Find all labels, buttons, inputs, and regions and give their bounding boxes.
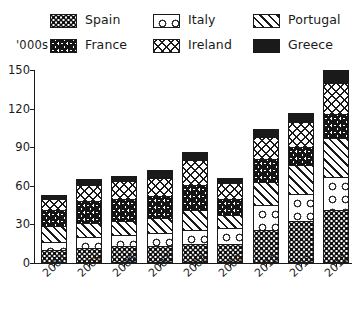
bar-segment-italy-2011[interactable]: [288, 194, 314, 221]
legend-item-greece: Greece: [253, 39, 356, 53]
bar-segment-italy-2009[interactable]: [217, 228, 243, 243]
bar-segment-ireland-2010[interactable]: [253, 137, 279, 159]
legend-item-ireland: Ireland: [153, 39, 253, 53]
legend-label-portugal: Portugal: [288, 14, 341, 27]
bar-segment-greece-2010[interactable]: [253, 129, 279, 137]
bar-segment-portugal-2004[interactable]: [41, 226, 67, 243]
bar-segment-greece-2012[interactable]: [323, 70, 349, 83]
y-tick-label: 0: [4, 256, 30, 270]
bar-2007[interactable]: [147, 170, 173, 263]
bar-2011[interactable]: [288, 113, 314, 263]
legend-label-ireland: Ireland: [188, 39, 232, 52]
bar-segment-greece-2007[interactable]: [147, 170, 173, 178]
bar-segment-portugal-2008[interactable]: [182, 210, 208, 229]
bar-2006[interactable]: [111, 176, 137, 263]
legend-swatch-greece: [253, 39, 280, 53]
bar-segment-ireland-2005[interactable]: [76, 185, 102, 202]
bar-segment-italy-2007[interactable]: [147, 233, 173, 246]
bar-segment-italy-2008[interactable]: [182, 230, 208, 244]
legend-swatch-italy: [153, 14, 180, 28]
bar-2010[interactable]: [253, 129, 279, 263]
stacked-bars-group: [36, 70, 354, 263]
bar-segment-italy-2005[interactable]: [76, 237, 102, 247]
bar-segment-portugal-2007[interactable]: [147, 218, 173, 233]
bar-segment-portugal-2011[interactable]: [288, 165, 314, 193]
bar-segment-france-2011[interactable]: [288, 147, 314, 165]
bar-segment-greece-2008[interactable]: [182, 152, 208, 160]
chart-plot-area: '000s 0306090120150 20042005200620072008…: [0, 60, 359, 312]
bar-segment-france-2004[interactable]: [41, 210, 67, 225]
bar-segment-ireland-2012[interactable]: [323, 83, 349, 114]
bar-2008[interactable]: [182, 152, 208, 263]
legend-label-france: France: [85, 39, 127, 52]
bar-segment-ireland-2007[interactable]: [147, 178, 173, 196]
legend-label-greece: Greece: [288, 39, 333, 52]
chart-legend: Spain Italy Portugal France Ireland Gree…: [50, 8, 356, 58]
legend-item-france: France: [50, 39, 153, 53]
legend-item-portugal: Portugal: [253, 14, 356, 28]
legend-row: France Ireland Greece: [50, 33, 356, 58]
y-tick-label: 60: [4, 179, 30, 193]
bar-segment-portugal-2010[interactable]: [253, 182, 279, 205]
legend-label-spain: Spain: [85, 14, 120, 27]
bar-segment-italy-2004[interactable]: [41, 242, 67, 250]
bar-2012[interactable]: [323, 70, 349, 263]
bar-segment-portugal-2006[interactable]: [111, 221, 137, 235]
y-tick-label: 150: [4, 63, 30, 77]
bar-segment-ireland-2009[interactable]: [217, 183, 243, 198]
bar-segment-portugal-2005[interactable]: [76, 223, 102, 237]
legend-swatch-portugal: [253, 14, 280, 28]
y-tick-label: 90: [4, 140, 30, 154]
bar-segment-france-2006[interactable]: [111, 199, 137, 221]
bar-segment-portugal-2012[interactable]: [323, 138, 349, 177]
bar-segment-france-2012[interactable]: [323, 114, 349, 138]
bar-segment-ireland-2004[interactable]: [41, 199, 67, 211]
legend-swatch-france: [50, 39, 77, 53]
bar-2009[interactable]: [217, 178, 243, 263]
bar-segment-ireland-2011[interactable]: [288, 122, 314, 148]
bar-segment-france-2010[interactable]: [253, 159, 279, 182]
legend-item-italy: Italy: [153, 14, 253, 28]
bar-segment-france-2009[interactable]: [217, 199, 243, 216]
bar-segment-france-2007[interactable]: [147, 196, 173, 218]
bar-segment-greece-2011[interactable]: [288, 113, 314, 122]
bar-segment-france-2008[interactable]: [182, 185, 208, 211]
y-axis-ticks: 0306090120150: [0, 60, 30, 312]
bar-segment-ireland-2008[interactable]: [182, 160, 208, 184]
bar-segment-italy-2006[interactable]: [111, 235, 137, 247]
y-tick-label: 30: [4, 217, 30, 231]
bar-segment-ireland-2006[interactable]: [111, 181, 137, 199]
bar-2005[interactable]: [76, 179, 102, 263]
y-tick-label: 120: [4, 102, 30, 116]
legend-item-spain: Spain: [50, 14, 153, 28]
legend-swatch-ireland: [153, 39, 180, 53]
bar-segment-italy-2012[interactable]: [323, 177, 349, 210]
bar-segment-portugal-2009[interactable]: [217, 215, 243, 228]
legend-swatch-spain: [50, 14, 77, 28]
bar-segment-france-2005[interactable]: [76, 201, 102, 223]
legend-label-italy: Italy: [188, 14, 216, 27]
y-axis-units-label: '000s: [16, 38, 48, 52]
bar-segment-italy-2010[interactable]: [253, 205, 279, 229]
legend-row: Spain Italy Portugal: [50, 8, 356, 33]
